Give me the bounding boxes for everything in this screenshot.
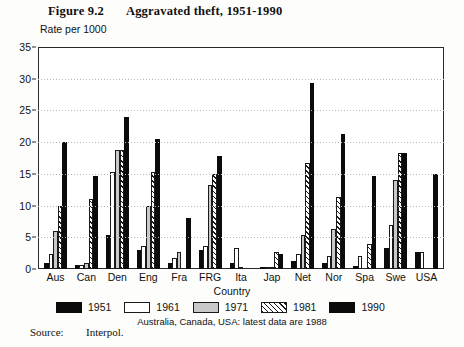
gridline bbox=[38, 206, 444, 207]
bar-usa-1961 bbox=[420, 252, 425, 269]
y-tick-mark bbox=[32, 78, 36, 79]
figure-title-text: Aggravated theft, 1951-1990 bbox=[126, 4, 282, 18]
x-axis-labels: AusCanDenEngFraFRGItaJapNetNorSpaSweUSA bbox=[38, 271, 444, 285]
legend-item-1961: 1961 bbox=[124, 301, 179, 313]
y-tick-label: 0 bbox=[25, 263, 31, 275]
plot-area bbox=[38, 47, 444, 269]
bar-group-frg bbox=[195, 47, 226, 269]
x-tick-label-fra: Fra bbox=[164, 271, 195, 285]
x-tick-label-net: Net bbox=[287, 271, 318, 285]
x-tick-label-nor: Nor bbox=[318, 271, 349, 285]
legend-label-1961: 1961 bbox=[156, 301, 179, 313]
y-tick-label: 30 bbox=[19, 73, 31, 85]
y-tick-label: 20 bbox=[19, 136, 31, 148]
x-axis-title: Country bbox=[0, 285, 464, 297]
y-tick-mark bbox=[32, 237, 36, 238]
legend-label-1951: 1951 bbox=[88, 301, 111, 313]
x-tick-label-jap: Jap bbox=[256, 271, 287, 285]
bar-nor-1990 bbox=[341, 134, 346, 269]
bar-fra-1971 bbox=[177, 252, 182, 269]
bar-spa-1990 bbox=[372, 176, 377, 269]
bar-ita-1971 bbox=[239, 267, 244, 269]
source-line: Source:Interpol. bbox=[30, 326, 124, 338]
source-value: Interpol. bbox=[86, 326, 124, 338]
legend-item-1951: 1951 bbox=[56, 301, 111, 313]
bar-usa-1990 bbox=[433, 174, 438, 269]
y-tick-mark bbox=[32, 205, 36, 206]
x-tick-label-can: Can bbox=[71, 271, 102, 285]
y-tick-label: 25 bbox=[19, 104, 31, 116]
bar-ita-1961 bbox=[234, 248, 239, 269]
y-tick-mark bbox=[32, 110, 36, 111]
legend-swatch-1981 bbox=[261, 302, 287, 313]
bar-group-fra bbox=[164, 47, 195, 269]
source-label: Source: bbox=[30, 326, 86, 338]
bar-jap-1990 bbox=[279, 254, 284, 269]
y-tick-label: 35 bbox=[19, 41, 31, 53]
figure-number: Figure 9.2 bbox=[48, 4, 104, 18]
gridline bbox=[38, 174, 444, 175]
bar-spa-1961 bbox=[358, 256, 363, 269]
legend-item-1981: 1981 bbox=[261, 301, 316, 313]
x-tick-label-spa: Spa bbox=[349, 271, 380, 285]
bar-group-den bbox=[102, 47, 133, 269]
x-tick-label-den: Den bbox=[102, 271, 133, 285]
x-tick-label-swe: Swe bbox=[380, 271, 411, 285]
bar-group-aus bbox=[40, 47, 71, 269]
figure-title: Figure 9.2Aggravated theft, 1951-1990 bbox=[48, 4, 282, 19]
y-tick-label: 10 bbox=[19, 200, 31, 212]
y-tick-mark bbox=[32, 173, 36, 174]
legend-swatch-1990 bbox=[329, 302, 355, 313]
bar-eng-1990 bbox=[155, 139, 160, 269]
legend-swatch-1971 bbox=[193, 302, 219, 313]
y-tick-label: 5 bbox=[25, 231, 31, 243]
bar-group-usa bbox=[411, 47, 442, 269]
bar-group-can bbox=[71, 47, 102, 269]
legend-item-1990: 1990 bbox=[329, 301, 384, 313]
bar-group-eng bbox=[133, 47, 164, 269]
bar-fra-1990 bbox=[186, 218, 191, 269]
gridline bbox=[38, 142, 444, 143]
bar-group-jap bbox=[256, 47, 287, 269]
x-tick-label-frg: FRG bbox=[195, 271, 226, 285]
y-tick-mark bbox=[32, 269, 36, 270]
bar-group-net bbox=[287, 47, 318, 269]
legend-label-1981: 1981 bbox=[293, 301, 316, 313]
bar-swe-1990 bbox=[402, 153, 407, 269]
x-tick-label-aus: Aus bbox=[40, 271, 71, 285]
x-tick-label-ita: Ita bbox=[226, 271, 257, 285]
gridline bbox=[38, 110, 444, 111]
y-axis: 05101520253035 bbox=[0, 47, 36, 269]
bar-groups bbox=[38, 47, 444, 269]
x-tick-label-eng: Eng bbox=[133, 271, 164, 285]
legend-swatch-1951 bbox=[56, 302, 82, 313]
legend-label-1990: 1990 bbox=[361, 301, 384, 313]
x-tick-label-usa: USA bbox=[411, 271, 442, 285]
bar-can-1990 bbox=[93, 176, 98, 269]
legend: 19511961197119811990 bbox=[56, 299, 416, 315]
bar-group-swe bbox=[380, 47, 411, 269]
bar-den-1990 bbox=[124, 117, 129, 269]
y-tick-mark bbox=[32, 47, 36, 48]
y-tick-mark bbox=[32, 142, 36, 143]
bar-group-ita bbox=[226, 47, 257, 269]
legend-item-1971: 1971 bbox=[193, 301, 248, 313]
bar-group-spa bbox=[349, 47, 380, 269]
legend-swatch-1961 bbox=[124, 302, 150, 313]
legend-label-1971: 1971 bbox=[225, 301, 248, 313]
gridline bbox=[38, 79, 444, 80]
bar-group-nor bbox=[318, 47, 349, 269]
y-tick-label: 15 bbox=[19, 168, 31, 180]
gridline bbox=[38, 237, 444, 238]
y-axis-title: Rate per 1000 bbox=[40, 23, 107, 35]
